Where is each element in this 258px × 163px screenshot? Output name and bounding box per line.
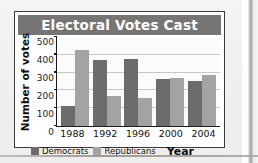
y-axis-label: Number of votes: [19, 37, 32, 127]
bar-group: [156, 37, 184, 126]
page-edge-artifact: [242, 0, 258, 163]
y-axis-tick-labels: 0100200300400500: [32, 37, 56, 127]
page-bottom-rule: [0, 155, 258, 157]
bar-democrats-1988: [61, 106, 75, 126]
x-tick-label: 2004: [191, 128, 215, 139]
y-tick-mark: [54, 107, 57, 108]
y-axis-label-text: Number of votes: [20, 33, 32, 132]
scanned-page: Electoral Votes Cast Number of votes 010…: [0, 0, 258, 163]
bar-group: [61, 37, 89, 126]
bar-republicans-1988: [75, 50, 89, 126]
legend-swatch-democrats-icon: [31, 147, 39, 155]
y-tick-mark: [54, 53, 57, 54]
x-tick-label: 1992: [93, 128, 117, 139]
bar-democrats-1992: [93, 60, 107, 126]
x-tick-label: 1988: [60, 128, 84, 139]
bar-republicans-2000: [170, 78, 184, 126]
x-tick-label: 1996: [126, 128, 150, 139]
y-tick-mark: [54, 89, 57, 90]
bar-group: [188, 37, 216, 126]
y-tick-mark: [54, 71, 57, 72]
y-tick-mark: [54, 125, 57, 126]
bar-groups: [57, 37, 220, 126]
chart-title-bar: Electoral Votes Cast: [18, 15, 221, 35]
axis-area: [56, 37, 220, 127]
bar-republicans-1992: [107, 96, 121, 126]
bar-group: [93, 37, 121, 126]
bar-democrats-2004: [188, 81, 202, 126]
x-tick-label: 2000: [159, 128, 183, 139]
plot-block: Number of votes 0100200300400500: [19, 37, 220, 127]
bar-republicans-2004: [202, 75, 216, 126]
bar-democrats-1996: [124, 59, 138, 126]
x-axis-tick-labels: 19881992199620002004: [56, 128, 220, 141]
bar-group: [124, 37, 152, 126]
legend-swatch-republicans-icon: [93, 147, 101, 155]
chart-card: Electoral Votes Cast Number of votes 010…: [14, 11, 225, 148]
y-tick-mark: [54, 36, 57, 37]
bar-republicans-1996: [138, 98, 152, 126]
chart-title: Electoral Votes Cast: [41, 17, 198, 33]
bar-democrats-2000: [156, 79, 170, 126]
